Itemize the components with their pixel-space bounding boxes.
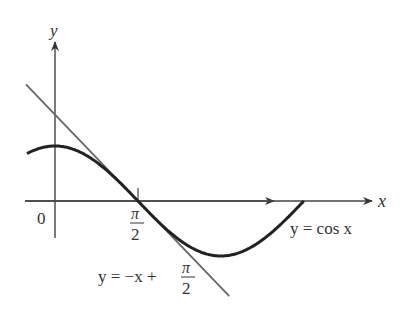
tangent-label-numerator: π xyxy=(182,259,191,276)
origin-label: 0 xyxy=(37,209,46,228)
y-axis-label: y xyxy=(48,21,58,40)
x-axis-label: x xyxy=(377,191,386,211)
tick-label-denominator: 2 xyxy=(131,225,140,244)
cosine-label: y = cos x xyxy=(290,219,352,238)
tangent-label-prefix: y = −x + xyxy=(98,267,157,286)
tangent-label-denominator: 2 xyxy=(182,279,191,298)
figure: y x 0 π 2 y = cos x y = −x + π 2 xyxy=(0,0,407,311)
tick-label-numerator: π xyxy=(131,205,140,222)
plot-svg: y x 0 π 2 y = cos x y = −x + π 2 xyxy=(0,0,407,311)
